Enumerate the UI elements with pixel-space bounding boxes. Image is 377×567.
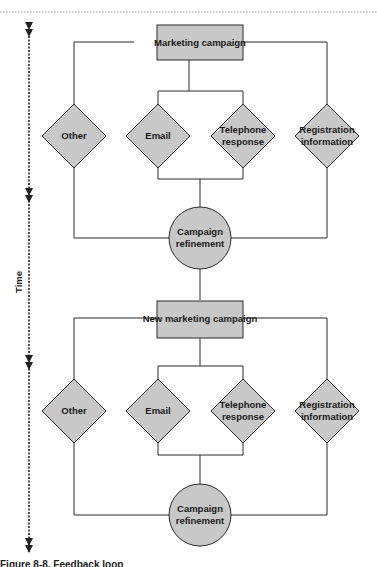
refinement-label-1a: Campaign [177,226,223,237]
decision-telephone-label-1b: response [222,136,264,147]
figure-caption: Figure 8-8. Feedback loop [0,558,377,567]
feedback-loop-diagram: Time Marketing campaign Other Email Tele… [0,0,377,567]
decision-registration-label-1b: information [301,136,353,147]
decision-telephone-label-2a: Telephone [220,399,267,410]
decision-registration-label-2a: Registration [299,399,355,410]
decision-registration-label-1a: Registration [299,124,355,135]
arrow-down-icon [25,538,33,553]
decision-other-label-1: Other [61,130,87,141]
refinement-label-2b: refinement [176,515,225,526]
decision-telephone-label-1a: Telephone [220,124,267,135]
refinement-label-2a: Campaign [177,503,223,514]
time-axis: Time [13,22,33,553]
arrow-down-icon [25,355,33,370]
arrow-down-icon [25,188,33,203]
decision-email-label-2: Email [145,405,170,416]
campaign-label-1: Marketing campaign [154,37,246,48]
time-axis-label: Time [13,271,24,293]
campaign-label-2: New marketing campaign [143,313,258,324]
decision-telephone-label-2b: response [222,411,264,422]
decision-registration-label-2b: information [301,411,353,422]
decision-other-label-2: Other [61,405,87,416]
arrow-down-icon [25,22,33,37]
refinement-label-1b: refinement [176,238,225,249]
decision-email-label-1: Email [145,130,170,141]
